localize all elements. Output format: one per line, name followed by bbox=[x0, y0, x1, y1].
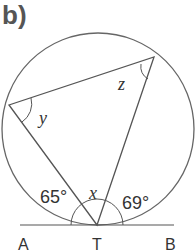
angle-arc-y bbox=[22, 98, 32, 122]
angle-x-label: x bbox=[89, 183, 97, 204]
angle-69-label: 69° bbox=[122, 193, 149, 214]
angle-y-label: y bbox=[39, 108, 47, 129]
point-b-label: B bbox=[165, 236, 176, 250]
point-t-label: T bbox=[92, 236, 102, 250]
circle bbox=[2, 33, 194, 225]
point-a-label: A bbox=[18, 236, 29, 250]
angle-z-label: z bbox=[118, 74, 125, 95]
angle-arc-x bbox=[71, 199, 123, 225]
circle-theorem-diagram bbox=[0, 0, 196, 250]
angle-65-label: 65° bbox=[40, 187, 67, 208]
